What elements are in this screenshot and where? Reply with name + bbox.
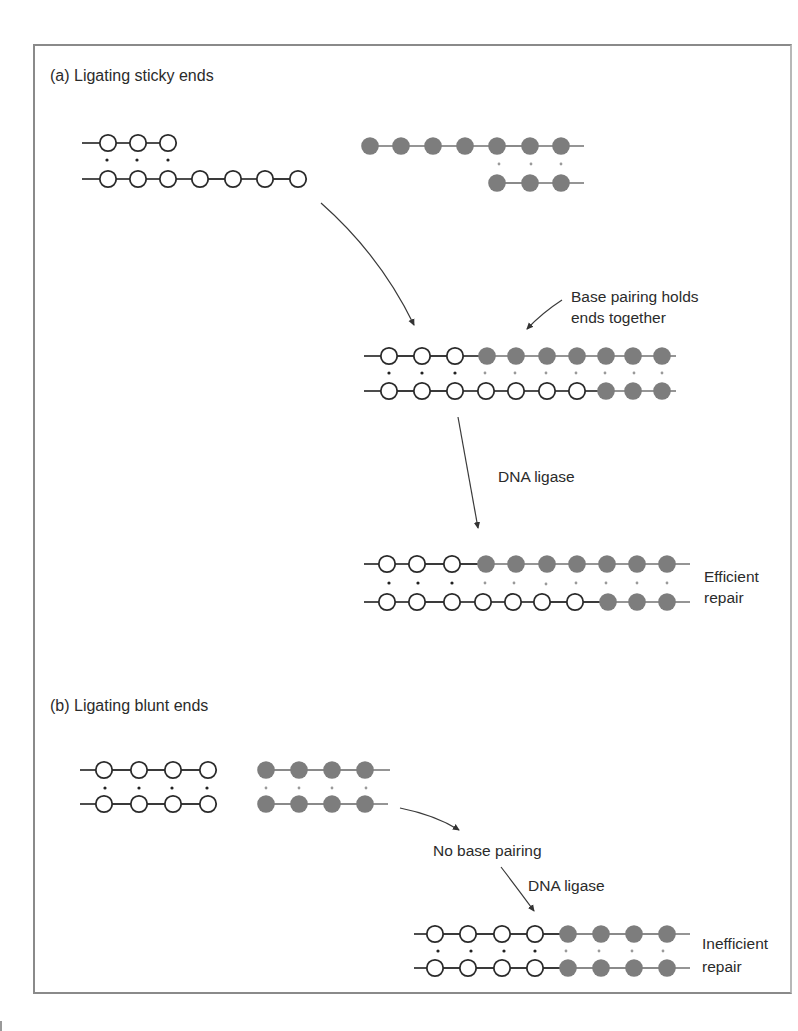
dna-strand bbox=[82, 135, 176, 151]
base-pair-dot bbox=[633, 372, 636, 375]
filled-nucleotide bbox=[257, 761, 275, 779]
filled-nucleotide bbox=[653, 382, 671, 400]
base-pair-dot bbox=[530, 163, 533, 166]
base-pair-dot bbox=[137, 786, 140, 789]
open-nucleotide bbox=[475, 594, 491, 610]
filled-nucleotide bbox=[456, 137, 474, 155]
open-nucleotide bbox=[257, 171, 273, 187]
base-pair-dot bbox=[545, 583, 548, 586]
base-pair-dot bbox=[545, 372, 548, 375]
base-pair-dot bbox=[135, 158, 138, 161]
base-pair-dot bbox=[365, 787, 368, 790]
dna-strand bbox=[364, 382, 676, 400]
open-nucleotide bbox=[96, 762, 112, 778]
open-nucleotide bbox=[460, 960, 476, 976]
open-nucleotide bbox=[534, 594, 550, 610]
base-pair-dot bbox=[436, 949, 439, 952]
filled-nucleotide bbox=[625, 925, 643, 943]
open-nucleotide bbox=[414, 348, 430, 364]
open-nucleotide bbox=[427, 926, 443, 942]
filled-nucleotide bbox=[323, 795, 341, 813]
arrow-base-pairing-pointer bbox=[527, 300, 562, 329]
base-pair-dot bbox=[469, 949, 472, 952]
filled-nucleotide bbox=[257, 795, 275, 813]
base-pairing-annotation: Base pairing holds ends together bbox=[571, 286, 699, 328]
open-nucleotide bbox=[567, 594, 583, 610]
base-pair-dot bbox=[560, 163, 563, 166]
sticky-annealed-molecule bbox=[364, 347, 676, 400]
open-nucleotide bbox=[427, 960, 443, 976]
filled-nucleotide bbox=[658, 959, 676, 977]
open-nucleotide bbox=[225, 171, 241, 187]
filled-nucleotide bbox=[477, 555, 495, 573]
filled-nucleotide bbox=[361, 137, 379, 155]
open-nucleotide bbox=[379, 556, 395, 572]
open-nucleotide bbox=[527, 926, 543, 942]
filled-nucleotide bbox=[658, 555, 676, 573]
filled-nucleotide bbox=[290, 761, 308, 779]
base-pair-dot bbox=[166, 158, 169, 161]
base-pair-dot bbox=[514, 372, 517, 375]
base-pair-dot bbox=[484, 372, 487, 375]
base-pair-dot bbox=[205, 786, 208, 789]
open-nucleotide bbox=[200, 796, 216, 812]
base-pair-dot bbox=[298, 787, 301, 790]
filled-nucleotide bbox=[392, 137, 410, 155]
arrow-blunt-to-no-pairing bbox=[400, 808, 459, 830]
base-pair-dot bbox=[498, 163, 501, 166]
base-pair-dot bbox=[575, 582, 578, 585]
filled-nucleotide bbox=[538, 555, 556, 573]
open-nucleotide bbox=[447, 383, 463, 399]
filled-nucleotide bbox=[559, 959, 577, 977]
filled-nucleotide bbox=[597, 347, 615, 365]
base-pair-dot bbox=[662, 950, 665, 953]
open-nucleotide bbox=[160, 171, 176, 187]
dna-strand bbox=[414, 925, 690, 943]
efficient-repair-label: Efficient repair bbox=[704, 566, 759, 608]
base-pair-dot bbox=[420, 371, 423, 374]
open-nucleotide bbox=[414, 383, 430, 399]
filled-nucleotide bbox=[624, 382, 642, 400]
filled-nucleotide bbox=[599, 593, 617, 611]
filled-nucleotide bbox=[478, 347, 496, 365]
open-nucleotide bbox=[494, 926, 510, 942]
open-nucleotide bbox=[409, 594, 425, 610]
open-nucleotide bbox=[381, 383, 397, 399]
open-nucleotide bbox=[478, 383, 494, 399]
base-pair-dot bbox=[604, 372, 607, 375]
blunt-ligated-molecule bbox=[414, 925, 690, 977]
base-pair-dot bbox=[103, 786, 106, 789]
base-pair-dot bbox=[605, 582, 608, 585]
dna-strand bbox=[361, 137, 584, 155]
open-nucleotide bbox=[494, 960, 510, 976]
open-nucleotide bbox=[505, 594, 521, 610]
open-nucleotide bbox=[444, 594, 460, 610]
open-nucleotide bbox=[381, 348, 397, 364]
base-pair-dot bbox=[575, 372, 578, 375]
base-pair-dot bbox=[416, 581, 419, 584]
filled-nucleotide bbox=[625, 959, 643, 977]
open-nucleotide bbox=[192, 171, 208, 187]
filled-nucleotide bbox=[488, 174, 506, 192]
filled-nucleotide bbox=[598, 555, 616, 573]
base-pair-dot bbox=[502, 949, 505, 952]
base-pair-dot bbox=[533, 949, 536, 952]
open-nucleotide bbox=[379, 594, 395, 610]
open-nucleotide bbox=[444, 556, 460, 572]
open-nucleotide bbox=[160, 135, 176, 151]
filled-nucleotide bbox=[323, 761, 341, 779]
open-nucleotide bbox=[447, 348, 463, 364]
filled-nucleotide bbox=[488, 137, 506, 155]
open-nucleotide bbox=[527, 960, 543, 976]
filled-nucleotide bbox=[521, 137, 539, 155]
open-nucleotide bbox=[131, 796, 147, 812]
dna-ligase-label-b: DNA ligase bbox=[528, 876, 605, 895]
arrow-annealed-to-ligated bbox=[458, 417, 478, 528]
open-nucleotide bbox=[165, 796, 181, 812]
base-pair-dot bbox=[631, 950, 634, 953]
base-pair-dot bbox=[105, 158, 108, 161]
open-nucleotide bbox=[290, 171, 306, 187]
base-pair-dot bbox=[513, 582, 516, 585]
dna-ligase-label-a: DNA ligase bbox=[498, 467, 575, 486]
open-nucleotide bbox=[130, 171, 146, 187]
